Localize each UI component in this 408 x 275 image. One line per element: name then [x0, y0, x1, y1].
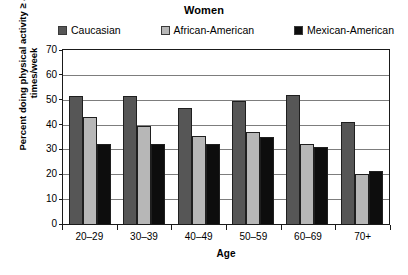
y-tick-label: 10: [46, 194, 59, 204]
bar: [123, 96, 137, 224]
legend-label-caucasian: Caucasian: [71, 25, 121, 36]
plot-area: 010203040506070: [62, 49, 390, 225]
y-tick-label: 50: [46, 95, 59, 105]
x-tick-label: 60–69: [281, 231, 336, 242]
bar: [246, 132, 260, 224]
x-tick-mark: [281, 225, 282, 230]
x-tick-mark: [117, 225, 118, 230]
x-axis-labels: 20–2930–3940–4950–5960–6970+: [62, 231, 390, 242]
bar-group: [335, 50, 389, 224]
legend-swatch-mexican-american: [294, 26, 303, 35]
legend-swatch-caucasian: [58, 26, 67, 35]
x-tick-label: 40–49: [171, 231, 226, 242]
x-tick-mark: [171, 225, 172, 230]
legend-item-african-american: African-American: [161, 25, 255, 36]
bar-group: [63, 50, 117, 224]
y-tick: 40: [46, 120, 63, 130]
bar: [286, 95, 300, 224]
y-axis-title: Percent doing physical activity ≥ 4 time…: [17, 0, 39, 163]
y-tick-label: 0: [51, 219, 59, 229]
bar: [260, 137, 274, 224]
bar-group: [280, 50, 334, 224]
bar: [69, 96, 83, 224]
y-tick-label: 40: [46, 120, 59, 130]
y-tick-label: 20: [46, 169, 59, 179]
bar-group: [117, 50, 171, 224]
bar: [341, 122, 355, 224]
bar: [137, 126, 151, 224]
y-tick-label: 60: [46, 70, 59, 80]
bar: [206, 144, 220, 224]
y-tick: 30: [46, 144, 63, 154]
bar: [369, 171, 383, 224]
x-tick-label: 20–29: [62, 231, 117, 242]
y-tick: 60: [46, 70, 63, 80]
chart-title: Women: [0, 4, 408, 16]
x-tick-mark: [62, 225, 63, 230]
chart-legend: Caucasian African-American Mexican-Ameri…: [58, 22, 398, 38]
y-tick: 50: [46, 95, 63, 105]
y-tick-label: 30: [46, 144, 59, 154]
bar-group: [172, 50, 226, 224]
y-tick: 10: [46, 194, 63, 204]
bar-group: [226, 50, 280, 224]
bar: [232, 101, 246, 224]
bar: [151, 144, 165, 224]
bar: [300, 144, 314, 224]
legend-item-mexican-american: Mexican-American: [294, 25, 394, 36]
x-tick-mark: [335, 225, 336, 230]
legend-label-african-american: African-American: [174, 25, 255, 36]
x-tick-mark: [226, 225, 227, 230]
x-tick-label: 50–59: [226, 231, 281, 242]
bar: [83, 117, 97, 224]
x-tick-label: 70+: [335, 231, 390, 242]
y-tick: 20: [46, 169, 63, 179]
x-tick-label: 30–39: [117, 231, 172, 242]
bar: [355, 174, 369, 224]
bar: [178, 108, 192, 224]
bars-layer: [63, 50, 389, 224]
x-tick-mark: [390, 225, 391, 230]
legend-label-mexican-american: Mexican-American: [307, 25, 394, 36]
bar: [314, 147, 328, 224]
y-tick-label: 70: [46, 45, 59, 55]
legend-swatch-african-american: [161, 26, 170, 35]
y-tick: 70: [46, 45, 63, 55]
bar: [192, 136, 206, 224]
bar-chart: Women Caucasian African-American Mexican…: [0, 0, 408, 275]
legend-item-caucasian: Caucasian: [58, 25, 121, 36]
bar: [97, 144, 111, 224]
x-axis-title: Age: [62, 248, 390, 259]
